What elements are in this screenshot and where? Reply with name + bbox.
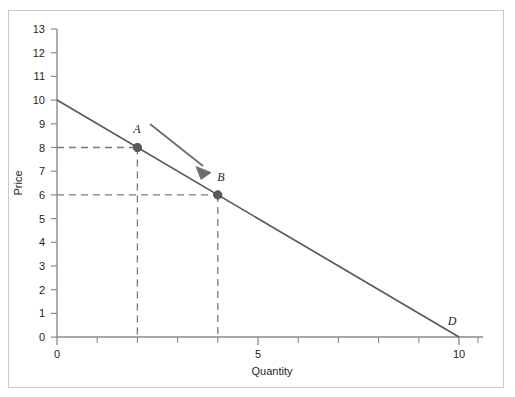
demand-curve-chart: 13 12 11 10 9 8 7 6 5 4 3 2 1 0 Price 0: [0, 0, 515, 397]
x-tick-label-5: 5: [255, 348, 261, 360]
movement-arrow: [150, 124, 211, 180]
cropped-caption-remnant: [196, 0, 316, 5]
y-tick-label-5: 5: [39, 213, 45, 225]
y-tick-label-6: 6: [39, 189, 45, 201]
y-tick-label-12: 12: [33, 47, 45, 59]
y-tick-label-11: 11: [34, 70, 45, 82]
y-axis-title: Price: [12, 170, 24, 195]
dashed-guides: [57, 148, 218, 338]
y-tick-label-3: 3: [39, 260, 45, 272]
data-point-b[interactable]: [214, 191, 222, 199]
y-tick-label-8: 8: [39, 142, 45, 154]
data-point-a[interactable]: [133, 143, 141, 151]
data-point-label-a: A: [132, 122, 141, 136]
x-axis-title: Quantity: [252, 365, 293, 377]
demand-curve-label: D: [447, 314, 457, 328]
y-tick-label-7: 7: [39, 165, 45, 177]
x-tick-label-0: 0: [54, 348, 60, 360]
y-tick-label-1: 1: [39, 307, 45, 319]
y-tick-label-2: 2: [39, 284, 45, 296]
data-point-label-b: B: [217, 170, 225, 184]
y-tick-label-9: 9: [39, 118, 45, 130]
y-tick-label-4: 4: [39, 236, 45, 248]
y-axis: 13 12 11 10 9 8 7 6 5 4 3 2 1 0 Price: [12, 23, 57, 343]
x-tick-label-10: 10: [453, 348, 465, 360]
y-tick-label-10: 10: [33, 94, 45, 106]
demand-curve-line: [57, 100, 459, 337]
y-tick-label-13: 13: [33, 23, 45, 35]
x-axis: 0 5 10 Quantity: [54, 337, 483, 377]
y-tick-label-0: 0: [39, 331, 45, 343]
